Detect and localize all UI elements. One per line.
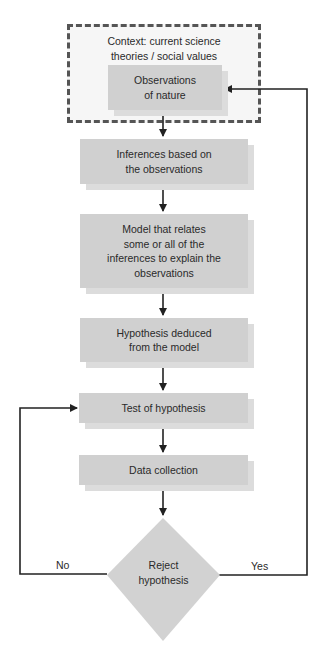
node-text: Test of hypothesis [121,401,205,416]
decision-text: Reject [107,558,220,573]
node-text: of nature [134,88,196,103]
node-observations: Observations of nature [108,65,222,110]
node-text: Model that relates [107,222,221,237]
decision-text: hypothesis [107,573,220,588]
node-hypothesis: Hypothesis deduced from the model [80,318,248,362]
node-data-collection: Data collection [79,455,248,485]
node-text: some or all of the [107,237,221,252]
arrow-no-to-test [20,408,107,574]
node-text: Inferences based on [116,147,211,162]
node-face: Model that relates some or all of the in… [80,214,248,288]
node-face: Inferences based on the observations [80,139,248,184]
node-face: Data collection [79,455,248,485]
node-model: Model that relates some or all of the in… [80,214,248,288]
branch-label-yes: Yes [251,560,268,572]
node-text: Data collection [129,463,198,478]
node-face: Observations of nature [108,65,222,110]
node-text: Observations [134,73,196,88]
node-test: Test of hypothesis [79,393,248,423]
node-text: from the model [116,340,211,355]
decision-label: Reject hypothesis [107,558,220,588]
node-text: Hypothesis deduced [116,326,211,341]
node-face: Test of hypothesis [79,393,248,423]
branch-label-no: No [56,559,69,571]
node-text: the observations [116,162,211,177]
node-face: Hypothesis deduced from the model [80,318,248,362]
node-text: observations [107,266,221,281]
node-text: inferences to explain the [107,251,221,266]
node-inferences: Inferences based on the observations [80,139,248,184]
